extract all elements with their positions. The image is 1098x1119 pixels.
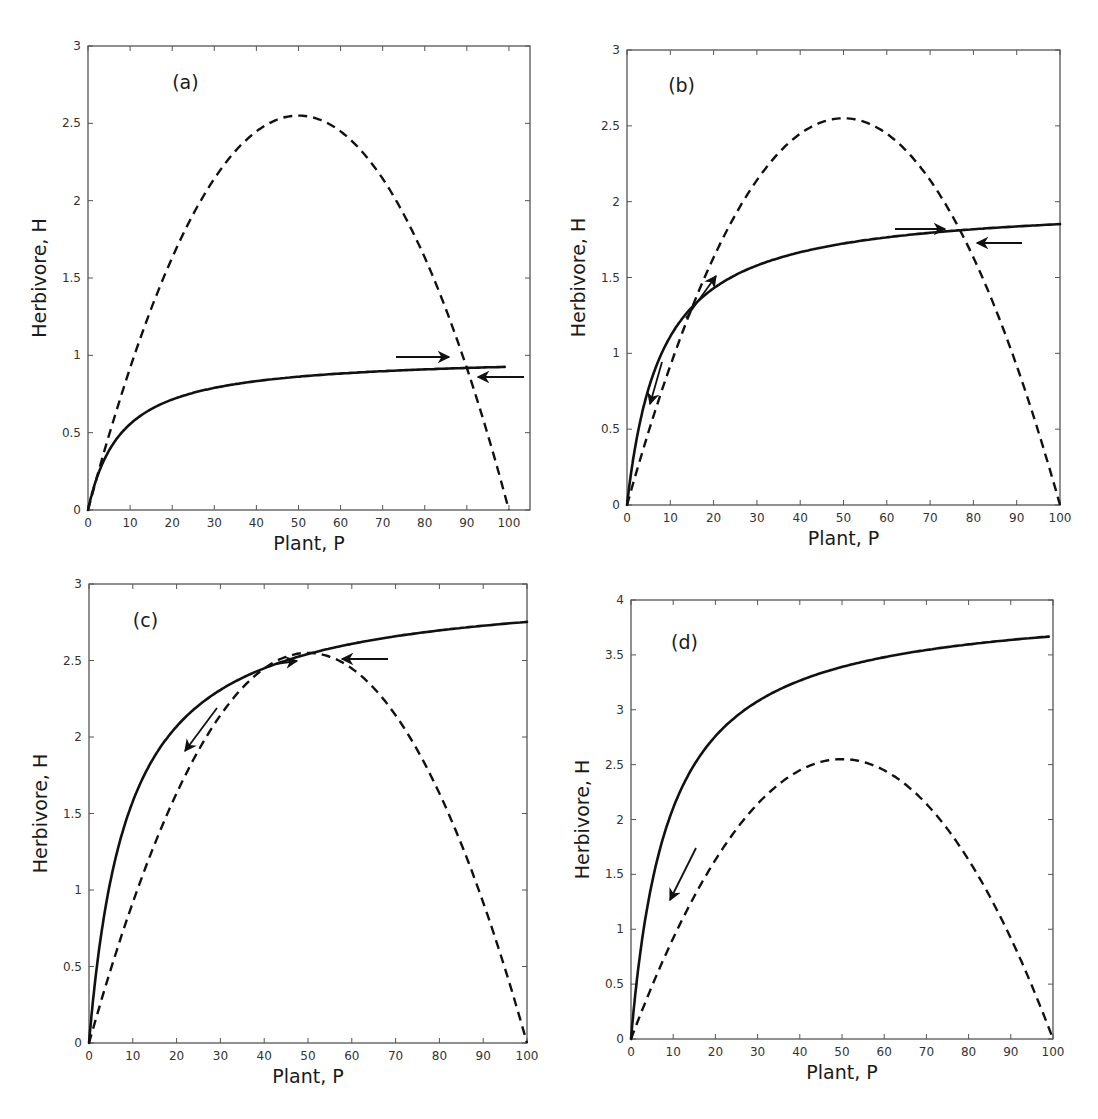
y-tick-label: 0.5 bbox=[63, 960, 82, 974]
x-tick-label: 50 bbox=[300, 1049, 315, 1063]
herbivore-isocline-solid bbox=[89, 622, 527, 1043]
x-tick-label: 10 bbox=[125, 1049, 140, 1063]
x-tick-label: 60 bbox=[333, 516, 348, 530]
y-tick-label: 2.5 bbox=[63, 654, 82, 668]
y-tick-label: 0 bbox=[616, 1032, 624, 1046]
x-tick-label: 80 bbox=[961, 1045, 976, 1059]
x-tick-label: 0 bbox=[84, 516, 92, 530]
x-tick-label: 90 bbox=[1009, 511, 1024, 525]
panel-label: (a) bbox=[172, 71, 198, 93]
trajectory-arrow-icon bbox=[670, 848, 696, 900]
panel-d: 010203040506070809010000.511.522.533.54P… bbox=[571, 593, 1064, 1083]
x-tick-label: 60 bbox=[344, 1049, 359, 1063]
x-tick-label: 0 bbox=[623, 511, 631, 525]
y-tick-label: 0 bbox=[74, 1036, 82, 1050]
y-tick-label: 3 bbox=[73, 39, 81, 53]
herbivore-isocline-solid bbox=[631, 637, 1049, 1039]
plant-isocline-dashed bbox=[627, 118, 1060, 505]
panel-b: 010203040506070809010000.511.522.53Plant… bbox=[567, 43, 1071, 549]
y-tick-label: 0.5 bbox=[62, 426, 81, 440]
y-tick-label: 0.5 bbox=[605, 977, 624, 991]
x-tick-label: 50 bbox=[834, 1045, 849, 1059]
axes-frame bbox=[627, 50, 1060, 505]
x-tick-label: 90 bbox=[476, 1049, 491, 1063]
x-tick-label: 20 bbox=[706, 511, 721, 525]
x-tick-label: 90 bbox=[1003, 1045, 1018, 1059]
y-axis-title: Herbivore, H bbox=[29, 754, 51, 873]
y-tick-label: 2 bbox=[612, 195, 620, 209]
x-tick-label: 20 bbox=[169, 1049, 184, 1063]
x-tick-label: 80 bbox=[417, 516, 432, 530]
x-axis-title: Plant, P bbox=[806, 1061, 877, 1083]
x-tick-label: 70 bbox=[388, 1049, 403, 1063]
x-tick-label: 60 bbox=[879, 511, 894, 525]
plant-isocline-dashed bbox=[88, 116, 509, 510]
x-tick-label: 50 bbox=[836, 511, 851, 525]
x-tick-label: 40 bbox=[793, 511, 808, 525]
y-axis-title: Herbivore, H bbox=[28, 218, 50, 337]
y-tick-label: 3 bbox=[74, 577, 82, 591]
x-tick-label: 0 bbox=[627, 1045, 635, 1059]
y-tick-label: 0 bbox=[612, 498, 620, 512]
x-tick-label: 30 bbox=[207, 516, 222, 530]
y-tick-label: 1 bbox=[616, 922, 624, 936]
herbivore-isocline-solid bbox=[88, 367, 505, 510]
y-tick-label: 1 bbox=[612, 346, 620, 360]
x-tick-label: 10 bbox=[663, 511, 678, 525]
panel-label: (c) bbox=[133, 609, 158, 631]
y-tick-label: 0.5 bbox=[601, 422, 620, 436]
trajectory-arrow-icon bbox=[686, 276, 716, 318]
y-tick-label: 2.5 bbox=[601, 119, 620, 133]
y-tick-label: 2 bbox=[616, 813, 624, 827]
y-axis-title: Herbivore, H bbox=[571, 760, 593, 879]
x-tick-label: 0 bbox=[85, 1049, 93, 1063]
panel-a: 010203040506070809010000.511.522.53Plant… bbox=[28, 39, 530, 554]
x-tick-label: 30 bbox=[213, 1049, 228, 1063]
y-tick-label: 1 bbox=[74, 883, 82, 897]
x-tick-label: 40 bbox=[257, 1049, 272, 1063]
x-tick-label: 50 bbox=[291, 516, 306, 530]
x-axis-title: Plant, P bbox=[273, 532, 344, 554]
x-tick-label: 80 bbox=[966, 511, 981, 525]
y-tick-label: 1.5 bbox=[601, 271, 620, 285]
x-tick-label: 10 bbox=[666, 1045, 681, 1059]
y-tick-label: 3 bbox=[612, 43, 620, 57]
x-tick-label: 20 bbox=[708, 1045, 723, 1059]
y-tick-label: 2 bbox=[74, 730, 82, 744]
x-tick-label: 30 bbox=[749, 511, 764, 525]
y-tick-label: 2.5 bbox=[62, 116, 81, 130]
y-tick-label: 2.5 bbox=[605, 758, 624, 772]
x-tick-label: 70 bbox=[375, 516, 390, 530]
axes-frame bbox=[88, 46, 530, 510]
y-axis-title: Herbivore, H bbox=[567, 218, 589, 337]
x-tick-label: 80 bbox=[432, 1049, 447, 1063]
x-tick-label: 40 bbox=[249, 516, 264, 530]
x-tick-label: 40 bbox=[792, 1045, 807, 1059]
figure-svg: 010203040506070809010000.511.522.53Plant… bbox=[0, 0, 1098, 1119]
panel-label: (d) bbox=[671, 631, 698, 653]
x-axis-title: Plant, P bbox=[808, 527, 879, 549]
plant-isocline-dashed bbox=[89, 653, 527, 1043]
y-tick-label: 0 bbox=[73, 503, 81, 517]
x-axis-title: Plant, P bbox=[272, 1065, 343, 1087]
plant-isocline-dashed bbox=[631, 759, 1053, 1039]
y-tick-label: 4 bbox=[616, 593, 624, 607]
x-tick-label: 10 bbox=[122, 516, 137, 530]
x-tick-label: 100 bbox=[516, 1049, 539, 1063]
y-tick-label: 1.5 bbox=[605, 867, 624, 881]
x-tick-label: 60 bbox=[877, 1045, 892, 1059]
panel-label: (b) bbox=[668, 74, 695, 96]
y-tick-label: 1 bbox=[73, 348, 81, 362]
x-tick-label: 90 bbox=[459, 516, 474, 530]
x-tick-label: 100 bbox=[497, 516, 520, 530]
x-tick-label: 70 bbox=[922, 511, 937, 525]
y-tick-label: 2 bbox=[73, 194, 81, 208]
panel-c: 010203040506070809010000.511.522.53Plant… bbox=[29, 577, 538, 1087]
y-tick-label: 3 bbox=[616, 703, 624, 717]
y-tick-label: 1.5 bbox=[63, 807, 82, 821]
y-tick-label: 1.5 bbox=[62, 271, 81, 285]
x-tick-label: 20 bbox=[165, 516, 180, 530]
x-tick-label: 70 bbox=[919, 1045, 934, 1059]
x-tick-label: 30 bbox=[750, 1045, 765, 1059]
herbivore-isocline-solid bbox=[627, 224, 1060, 505]
